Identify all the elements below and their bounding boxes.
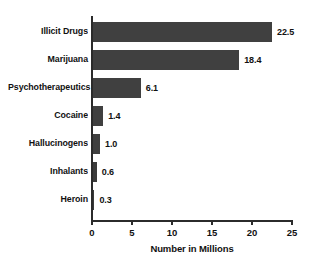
- bar-value-illicit-drugs: 22.5: [277, 27, 294, 37]
- x-tick-5: [131, 221, 133, 225]
- x-tick-0: [91, 221, 93, 225]
- bar-marijuana: [92, 50, 239, 70]
- bar-value-psychotherapeutics: 6.1: [146, 83, 158, 93]
- x-tick-label-10: 10: [167, 227, 178, 238]
- x-tick-label-0: 0: [89, 227, 94, 238]
- category-label-hallucinogens: Hallucinogens: [8, 138, 88, 148]
- x-axis-title: Number in Millions: [92, 243, 292, 254]
- bar-value-cocaine: 1.4: [108, 111, 120, 121]
- x-tick-15: [211, 221, 213, 225]
- bar-value-inhalants: 0.6: [102, 167, 114, 177]
- category-label-cocaine: Cocaine: [8, 110, 88, 120]
- category-label-illicit-drugs: Illicit Drugs: [8, 26, 88, 36]
- x-tick-label-5: 5: [129, 227, 134, 238]
- x-tick-label-15: 15: [207, 227, 218, 238]
- category-label-marijuana: Marijuana: [8, 54, 88, 64]
- x-tick-25: [291, 221, 293, 225]
- x-tick-10: [171, 221, 173, 225]
- y-axis-line: [91, 16, 93, 222]
- bar-hallucinogens: [92, 134, 100, 154]
- bar-value-marijuana: 18.4: [244, 55, 261, 65]
- plot-area: 22.5 18.4 6.1 1.4 1.0 0.6 0.3: [92, 16, 292, 221]
- bar-illicit-drugs: [92, 22, 272, 42]
- category-label-inhalants: Inhalants: [8, 166, 88, 176]
- x-axis-line: [91, 220, 293, 222]
- bar-chart: Illicit Drugs Marijuana Psychotherapeuti…: [0, 0, 312, 265]
- x-tick-20: [251, 221, 253, 225]
- bar-cocaine: [92, 106, 103, 126]
- bar-inhalants: [92, 162, 97, 182]
- x-tick-label-25: 25: [287, 227, 298, 238]
- category-label-heroin: Heroin: [8, 194, 88, 204]
- x-tick-label-20: 20: [247, 227, 258, 238]
- bar-value-heroin: 0.3: [99, 195, 111, 205]
- category-label-psychotherapeutics: Psychotherapeutics: [8, 82, 88, 92]
- bar-psychotherapeutics: [92, 78, 141, 98]
- bar-value-hallucinogens: 1.0: [105, 139, 117, 149]
